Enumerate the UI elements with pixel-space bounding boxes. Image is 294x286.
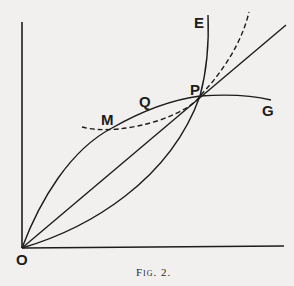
diagram-canvas bbox=[0, 0, 294, 286]
label-origin: O bbox=[16, 252, 28, 267]
x-axis bbox=[22, 246, 284, 248]
curve-OPE bbox=[22, 15, 208, 248]
label-Q: Q bbox=[139, 94, 151, 109]
straight-line-OP bbox=[22, 25, 286, 248]
figure-caption: Fig. 2. bbox=[136, 266, 171, 278]
label-G: G bbox=[262, 103, 274, 118]
label-P: P bbox=[190, 82, 200, 97]
label-E: E bbox=[194, 15, 204, 30]
curve-OQPG bbox=[22, 95, 271, 248]
label-M: M bbox=[101, 112, 114, 127]
